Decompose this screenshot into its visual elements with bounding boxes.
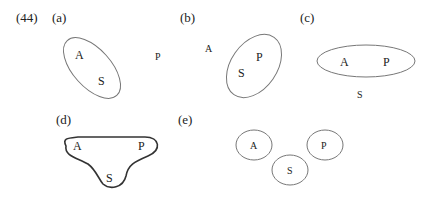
panel-d-label: (d) (56, 112, 71, 127)
letter-a: A (340, 55, 349, 69)
letter-p: P (321, 140, 327, 151)
panel-c-label: (c) (300, 10, 314, 25)
panel-b: A P S (205, 24, 293, 108)
letter-s: S (98, 74, 105, 88)
panel-b-label: (b) (180, 10, 195, 25)
panel-e: A P S (236, 130, 343, 185)
letter-s: S (238, 66, 245, 80)
letter-p: P (383, 55, 390, 69)
letter-a: A (250, 140, 258, 151)
letter-a: A (205, 43, 213, 54)
letter-s: S (106, 171, 113, 185)
ellipse-s-p (215, 24, 293, 108)
letter-a: A (73, 139, 82, 153)
letter-p: P (138, 139, 145, 153)
letter-a: A (75, 48, 84, 62)
figure-number: (44) (16, 10, 38, 25)
letter-s: S (287, 165, 293, 176)
panel-d: A P S (65, 137, 158, 187)
letter-p: P (155, 51, 161, 62)
panel-c: A P S (317, 45, 415, 100)
panel-a: A S P (53, 28, 161, 108)
letter-s: S (357, 89, 363, 100)
panel-e-label: (e) (178, 112, 192, 127)
letter-p: P (256, 50, 263, 64)
panel-a-label: (a) (52, 10, 66, 25)
ellipse-a-p (317, 45, 415, 77)
venn-diagram-figure: (44) (a) (b) (c) (d) (e) A S P A P S A P… (0, 0, 437, 197)
ellipse-a-s (53, 28, 131, 108)
